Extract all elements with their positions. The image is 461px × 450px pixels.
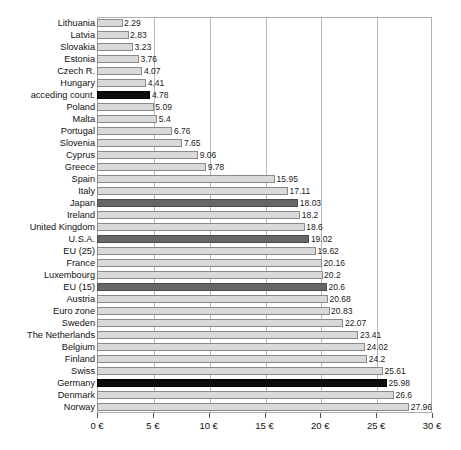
category-label: Greece bbox=[0, 162, 95, 173]
category-label: Finland bbox=[0, 354, 95, 365]
category-label: Japan bbox=[0, 198, 95, 209]
x-axis-tick bbox=[153, 413, 154, 418]
bar bbox=[97, 355, 367, 363]
category-label: Portugal bbox=[0, 126, 95, 137]
category-label: Poland bbox=[0, 102, 95, 113]
category-label: Sweden bbox=[0, 318, 95, 329]
x-axis-tick-label: 20 € bbox=[311, 420, 330, 432]
bar bbox=[97, 31, 129, 39]
bar bbox=[97, 67, 142, 75]
bar bbox=[97, 283, 327, 291]
bar bbox=[97, 175, 275, 183]
bar bbox=[97, 139, 182, 147]
bar bbox=[97, 223, 305, 231]
bar bbox=[97, 247, 316, 255]
bar bbox=[97, 379, 387, 387]
bar bbox=[97, 319, 343, 327]
bar-value-label: 9.06 bbox=[200, 150, 217, 161]
bar-value-label: 18.2 bbox=[302, 210, 319, 221]
bar-value-label: 9.78 bbox=[208, 162, 225, 173]
x-axis: 0 €5 €10 €15 €20 €25 €30 € bbox=[97, 413, 432, 443]
bar-value-label: 20.83 bbox=[331, 306, 352, 317]
category-label: Latvia bbox=[0, 30, 95, 41]
bar bbox=[97, 103, 154, 111]
bar bbox=[97, 271, 323, 279]
x-axis-tick-label: 25 € bbox=[367, 420, 386, 432]
category-label: United Kingdom bbox=[0, 222, 95, 233]
bar bbox=[97, 187, 288, 195]
bar-value-label: 17.11 bbox=[290, 186, 311, 197]
category-label: Cyprus bbox=[0, 150, 95, 161]
bar bbox=[97, 151, 198, 159]
x-axis-tick-label: 30 € bbox=[423, 420, 442, 432]
category-label: Malta bbox=[0, 114, 95, 125]
bar bbox=[97, 79, 146, 87]
category-label: The Netherlands bbox=[0, 330, 95, 341]
x-axis-tick-label: 15 € bbox=[255, 420, 274, 432]
bar-value-label: 5.4 bbox=[159, 114, 171, 125]
bar-value-label: 22.07 bbox=[345, 318, 366, 329]
bar-value-label: 24.2 bbox=[369, 354, 386, 365]
category-label: Slovakia bbox=[0, 42, 95, 53]
x-axis-tick-label: 0 € bbox=[90, 420, 103, 432]
bar bbox=[97, 199, 298, 207]
bar-rows: 2.292.833.233.764.074.414.785.095.46.767… bbox=[97, 17, 432, 413]
category-label: Slovenia bbox=[0, 138, 95, 149]
bar bbox=[97, 331, 358, 339]
category-label: Italy bbox=[0, 186, 95, 197]
category-label: Swiss bbox=[0, 366, 95, 377]
bar-value-label: 25.98 bbox=[389, 378, 410, 389]
category-label: Austria bbox=[0, 294, 95, 305]
bar-chart: LithuaniaLatviaSlovakiaEstoniaCzech R.Hu… bbox=[0, 0, 461, 450]
bar-value-label: 4.07 bbox=[144, 66, 161, 77]
category-label: Spain bbox=[0, 174, 95, 185]
bar-value-label: 25.61 bbox=[384, 366, 405, 377]
category-label: Euro zone bbox=[0, 306, 95, 317]
bar-value-label: 4.78 bbox=[152, 90, 169, 101]
bar bbox=[97, 367, 383, 375]
bar-value-label: 3.23 bbox=[135, 42, 152, 53]
bar bbox=[97, 295, 328, 303]
bar-value-label: 3.76 bbox=[140, 54, 157, 65]
bar-value-label: 18.03 bbox=[300, 198, 321, 209]
bar bbox=[97, 403, 409, 411]
bar bbox=[97, 259, 322, 267]
bar bbox=[97, 163, 206, 171]
category-label: Norway bbox=[0, 402, 95, 413]
bar bbox=[97, 343, 365, 351]
bar-value-label: 20.68 bbox=[329, 294, 350, 305]
category-label: Ireland bbox=[0, 210, 95, 221]
bar bbox=[97, 211, 300, 219]
bar-value-label: 2.29 bbox=[124, 18, 141, 29]
x-axis-tick bbox=[265, 413, 266, 418]
x-axis-tick bbox=[432, 413, 433, 418]
bar-value-label: 7.65 bbox=[184, 138, 201, 149]
x-axis-tick-label: 5 € bbox=[146, 420, 159, 432]
category-label: France bbox=[0, 258, 95, 269]
bar-value-label: 26.6 bbox=[396, 390, 413, 401]
x-axis-tick bbox=[209, 413, 210, 418]
bar-value-label: 2.83 bbox=[130, 30, 147, 41]
category-label: Belgium bbox=[0, 342, 95, 353]
category-label: EU (15) bbox=[0, 282, 95, 293]
bar bbox=[97, 55, 139, 63]
x-axis-tick-label: 10 € bbox=[199, 420, 218, 432]
bar bbox=[97, 391, 394, 399]
bar bbox=[97, 19, 123, 27]
bar-value-label: 19.62 bbox=[318, 246, 339, 257]
category-axis-labels: LithuaniaLatviaSlovakiaEstoniaCzech R.Hu… bbox=[0, 17, 95, 413]
category-label: Luxembourg bbox=[0, 270, 95, 281]
category-label: Lithuania bbox=[0, 18, 95, 29]
bar-value-label: 20.16 bbox=[324, 258, 345, 269]
category-label: Czech R. bbox=[0, 66, 95, 77]
bar-value-label: 15.95 bbox=[277, 174, 298, 185]
category-label: Denmark bbox=[0, 390, 95, 401]
category-label: Estonia bbox=[0, 54, 95, 65]
bar-value-label: 6.76 bbox=[174, 126, 191, 137]
bar-value-label: 23.41 bbox=[360, 330, 381, 341]
bar bbox=[97, 115, 157, 123]
bar-value-label: 4.41 bbox=[148, 78, 165, 89]
category-label: EU (25) bbox=[0, 246, 95, 257]
bar bbox=[97, 127, 172, 135]
x-axis-tick bbox=[320, 413, 321, 418]
